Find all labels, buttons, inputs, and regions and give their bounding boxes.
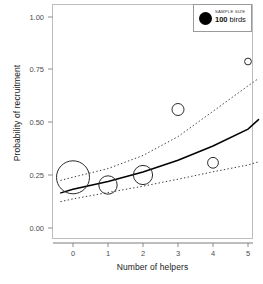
legend-text-group: SAMPLE SIZE 100 birds	[215, 9, 251, 25]
x-axis-ticks	[53, 243, 253, 247]
x-tick-label-1: 1	[100, 249, 116, 258]
legend-unit: birds	[230, 15, 246, 24]
y-tick-label-0-25: 0.25	[20, 171, 44, 180]
y-tick-label-0-00: 0.00	[20, 224, 44, 233]
legend-value-line: 100 birds	[215, 15, 251, 25]
y-tick-label-0-75: 0.75	[20, 65, 44, 74]
legend-value: 100	[215, 15, 228, 24]
y-axis-title: Probability of recruitment	[12, 0, 22, 228]
y-tick-label-0-50: 0.50	[20, 118, 44, 127]
x-tick-label-3: 3	[170, 249, 186, 258]
x-tick-label-2: 2	[135, 249, 151, 258]
y-tick-label-1-00: 1.00	[20, 13, 44, 22]
x-tick-label-4: 4	[205, 249, 221, 258]
x-tick-label-0: 0	[65, 249, 81, 258]
sample-size-legend: SAMPLE SIZE 100 birds	[193, 4, 252, 32]
plot-panel	[53, 5, 253, 239]
legend-circle-icon	[199, 12, 212, 25]
x-tick-label-5: 5	[240, 249, 256, 258]
bubble-scatter-figure: 1.00 0.75 0.50 0.25 0.00 0 1 2 3 4 5 Pro…	[0, 0, 263, 284]
plot-canvas	[0, 0, 263, 284]
y-axis-ticks	[48, 17, 53, 228]
x-axis-title: Number of helpers	[52, 262, 253, 272]
